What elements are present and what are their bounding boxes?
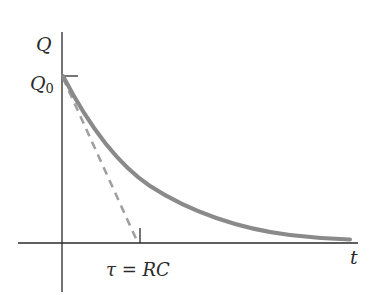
q0-label-main: Q — [30, 72, 46, 94]
y-axis-label: Q — [36, 33, 52, 55]
rc-discharge-diagram: Q Q0 τ = RC t — [0, 0, 383, 295]
q0-label: Q0 — [30, 72, 54, 96]
q0-label-subscript: 0 — [46, 81, 54, 96]
x-axis-label: t — [350, 246, 358, 268]
time-constant-label: τ = RC — [106, 259, 170, 280]
decay-curve — [63, 76, 350, 240]
initial-slope-tangent — [63, 78, 138, 243]
